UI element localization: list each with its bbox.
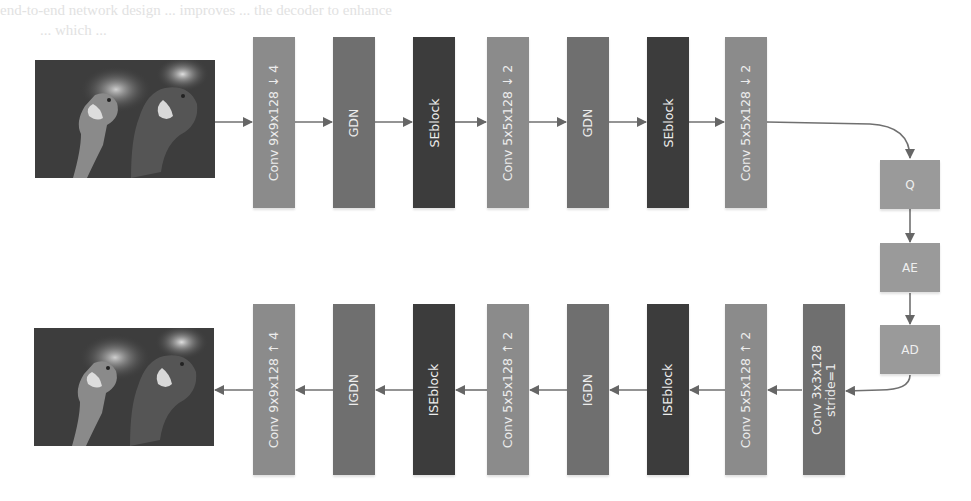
encoder-seblock-1: SEblock	[413, 37, 455, 208]
block-label: ISEblock	[427, 363, 441, 416]
decoder-conv-5x5-up2-block-2: Conv 5x5x128 ↑ 2	[725, 304, 767, 475]
block-label: IGDN	[347, 373, 361, 405]
encoder-seblock-2: SEblock	[647, 37, 689, 208]
block-label: Conv 5x5x128 ↑ 2	[501, 331, 515, 448]
block-label: SEblock	[661, 98, 675, 147]
block-label-line-1: Conv 3x3x128	[809, 344, 824, 434]
arithmetic-encoder-ae-block: AE	[880, 243, 940, 292]
block-label: IGDN	[581, 373, 595, 405]
block-label: Conv 9x9x128 ↑ 4	[267, 331, 281, 448]
decoder-igdn-block-2: IGDN	[567, 304, 609, 475]
block-label: Conv 9x9x128 ↓ 4	[267, 64, 281, 181]
block-label: GDN	[347, 108, 361, 137]
encoder-conv-9x9-down4-block: Conv 9x9x128 ↓ 4	[253, 37, 295, 208]
decoder-iseblock-2: ISEblock	[647, 304, 689, 475]
decoder-conv-3x3-stride1-block: Conv 3x3x128 stride=1	[803, 304, 845, 475]
decoder-conv-5x5-up2-block-1: Conv 5x5x128 ↑ 2	[487, 304, 529, 475]
block-label: SEblock	[427, 98, 441, 147]
block-label: Conv 5x5x128 ↑ 2	[739, 331, 753, 448]
block-label-line-2: stride=1	[823, 362, 838, 416]
block-label: GDN	[581, 108, 595, 137]
block-label: Conv 3x3x128 stride=1	[810, 344, 838, 434]
arithmetic-decoder-ad-block: AD	[880, 325, 940, 374]
decoder-igdn-block-1: IGDN	[333, 304, 375, 475]
decoder-conv-9x9-up4-block: Conv 9x9x128 ↑ 4	[253, 304, 295, 475]
block-label: Conv 5x5x128 ↓ 2	[501, 64, 515, 181]
encoder-conv-5x5-down2-block-1: Conv 5x5x128 ↓ 2	[487, 37, 529, 208]
quantizer-q-block: Q	[880, 160, 940, 209]
encoder-gdn-block-2: GDN	[567, 37, 609, 208]
encoder-conv-5x5-down2-block-2: Conv 5x5x128 ↓ 2	[725, 37, 767, 208]
block-label: Conv 5x5x128 ↓ 2	[739, 64, 753, 181]
block-label: ISEblock	[661, 363, 675, 416]
decoder-iseblock-1: ISEblock	[413, 304, 455, 475]
encoder-gdn-block-1: GDN	[333, 37, 375, 208]
